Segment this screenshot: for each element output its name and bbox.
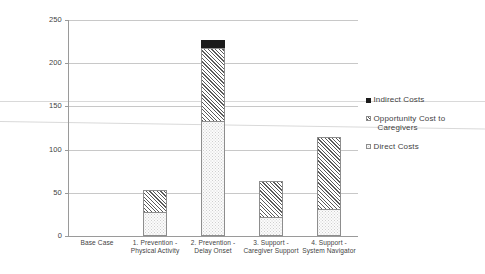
category-label-line: Delay Onset bbox=[182, 247, 244, 255]
bar-stack-support-caregiver-support bbox=[259, 181, 283, 236]
category-label-base-case: Base Case bbox=[68, 239, 126, 247]
segment-direct-costs bbox=[259, 217, 283, 236]
legend-item-indirect-costs[interactable]: Indirect Costs bbox=[366, 95, 484, 105]
bar-base-case bbox=[68, 20, 126, 236]
legend-item-direct-costs[interactable]: Direct Costs bbox=[366, 142, 484, 152]
bar-stack-prevention-delay-onset bbox=[201, 40, 225, 236]
category-label-line: Caregiver Support bbox=[238, 247, 304, 255]
segment-direct-costs bbox=[201, 121, 225, 236]
legend-label-indirect-costs: Indirect Costs bbox=[374, 95, 425, 105]
category-label-line: 1. Prevention - bbox=[124, 239, 186, 247]
y-axis-tick-150: 150 bbox=[22, 102, 62, 110]
category-label-line: System Navigator bbox=[296, 247, 362, 255]
y-axis-tick-50: 50 bbox=[22, 189, 62, 197]
bar-series-group bbox=[68, 20, 358, 236]
legend-swatch-indirect-icon bbox=[366, 98, 371, 103]
legend-label-line-2: Caregivers bbox=[374, 123, 418, 133]
chart-legend: Indirect Costs Opportunity Cost to Careg… bbox=[366, 95, 484, 160]
stacked-bar-chart: 250 200 150 100 50 0 bbox=[0, 0, 485, 274]
segment-direct-costs bbox=[143, 212, 167, 236]
category-label-line: Base Case bbox=[68, 239, 126, 247]
y-axis-tick-200: 200 bbox=[22, 59, 62, 67]
segment-indirect-costs bbox=[201, 40, 225, 48]
y-axis-tick-100: 100 bbox=[22, 146, 62, 154]
category-label-prevention-physical-activity: 1. Prevention - Physical Activity bbox=[124, 239, 186, 256]
category-label-line: Physical Activity bbox=[124, 247, 186, 255]
legend-label-direct-costs: Direct Costs bbox=[374, 142, 419, 152]
category-label-line: 2. Prevention - bbox=[182, 239, 244, 247]
legend-swatch-opportunity-icon bbox=[366, 116, 371, 121]
bar-stack-prevention-physical-activity bbox=[143, 190, 167, 236]
category-label-line: 3. Support - bbox=[238, 239, 304, 247]
category-label-support-caregiver-support: 3. Support - Caregiver Support bbox=[238, 239, 304, 256]
bar-support-system-navigator bbox=[300, 20, 358, 236]
legend-swatch-direct-icon bbox=[366, 144, 371, 149]
y-axis-tick-250: 250 bbox=[22, 16, 62, 24]
legend-item-opportunity-cost[interactable]: Opportunity Cost to Caregivers bbox=[366, 114, 484, 133]
bar-prevention-physical-activity bbox=[126, 20, 184, 236]
bar-prevention-delay-onset bbox=[184, 20, 242, 236]
segment-opportunity-cost bbox=[317, 137, 341, 210]
bar-stack-support-system-navigator bbox=[317, 137, 341, 236]
segment-opportunity-cost bbox=[201, 48, 225, 121]
segment-opportunity-cost bbox=[259, 181, 283, 217]
gridline-baseline-0 bbox=[68, 236, 358, 237]
segment-opportunity-cost bbox=[143, 190, 167, 212]
legend-label-line-1: Opportunity Cost to bbox=[374, 114, 446, 123]
bar-support-caregiver-support bbox=[242, 20, 300, 236]
legend-label-opportunity-cost: Opportunity Cost to Caregivers bbox=[374, 114, 446, 133]
category-label-support-system-navigator: 4. Support - System Navigator bbox=[296, 239, 362, 256]
y-axis-tick-0: 0 bbox=[22, 232, 62, 240]
category-label-prevention-delay-onset: 2. Prevention - Delay Onset bbox=[182, 239, 244, 256]
x-axis-category-labels: Base Case 1. Prevention - Physical Activ… bbox=[68, 239, 358, 271]
segment-direct-costs bbox=[317, 209, 341, 236]
category-label-line: 4. Support - bbox=[296, 239, 362, 247]
